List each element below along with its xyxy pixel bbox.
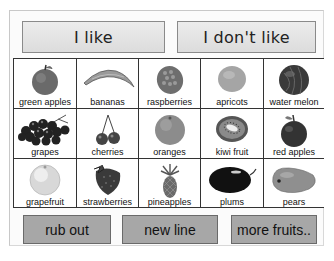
fruit-cell-pineapples[interactable]: pineapples	[138, 159, 200, 208]
more-fruits-button[interactable]: more fruits..	[231, 215, 317, 244]
green-apple-icon	[28, 63, 62, 97]
fruit-label: water melon	[269, 97, 318, 107]
plum-icon	[206, 163, 258, 195]
fruit-label: grapefruit	[26, 197, 64, 207]
fruit-cell-oranges[interactable]: oranges	[138, 109, 200, 159]
orange-icon	[152, 113, 188, 147]
i-like-button[interactable]: I like	[22, 21, 165, 53]
fruit-cell-kiwi-fruit[interactable]: kiwi fruit	[200, 109, 263, 159]
fruit-label: apricots	[216, 97, 248, 107]
kiwi-icon	[213, 113, 251, 145]
fruit-cell-plums[interactable]: plums	[200, 159, 263, 208]
fruit-label: plums	[220, 197, 244, 207]
fruit-cell-water-melon[interactable]: water melon	[263, 59, 324, 109]
grapes-icon	[16, 113, 74, 147]
grapefruit-icon	[27, 163, 63, 197]
fruit-label: grapes	[31, 147, 59, 157]
fruit-cell-grapes[interactable]: grapes	[13, 109, 76, 159]
fruit-label: raspberries	[147, 97, 192, 107]
fruit-label: cherries	[91, 147, 123, 157]
fruit-label: pears	[283, 197, 306, 207]
fruit-cell-bananas[interactable]: bananas	[76, 59, 138, 109]
fruit-cell-grapefruit[interactable]: grapefruit	[13, 159, 76, 208]
fruit-cell-red-apples[interactable]: red apples	[263, 109, 324, 159]
fruit-label: bananas	[90, 97, 125, 107]
raspberry-icon	[153, 63, 187, 97]
fruit-grid: green apples bananas raspberries apricot…	[13, 58, 324, 208]
strawberry-icon	[90, 163, 126, 197]
apricot-icon	[215, 63, 249, 95]
fruit-cell-green-apples[interactable]: green apples	[13, 59, 76, 109]
banana-icon	[80, 63, 136, 93]
fruit-label: green apples	[19, 97, 71, 107]
fruit-label: strawberries	[83, 197, 132, 207]
fruit-cell-apricots[interactable]: apricots	[200, 59, 263, 109]
watermelon-icon	[276, 63, 312, 97]
fruit-label: kiwi fruit	[216, 147, 249, 157]
new-line-button[interactable]: new line	[122, 215, 218, 244]
pineapple-icon	[159, 163, 181, 199]
i-dont-like-button[interactable]: I don't like	[177, 21, 316, 53]
cherries-icon	[93, 113, 123, 147]
more-fruits-label: more fruits..	[237, 222, 311, 238]
fruit-cell-pears[interactable]: pears	[263, 159, 324, 208]
i-like-label: I like	[74, 28, 113, 47]
pear-icon	[269, 163, 319, 195]
i-dont-like-label: I don't like	[203, 28, 290, 47]
fruit-label: oranges	[153, 147, 186, 157]
fruit-cell-strawberries[interactable]: strawberries	[76, 159, 138, 208]
rub-out-label: rub out	[45, 222, 89, 238]
fruit-cell-cherries[interactable]: cherries	[76, 109, 138, 159]
rub-out-button[interactable]: rub out	[23, 215, 111, 244]
new-line-label: new line	[144, 222, 195, 238]
fruit-cell-raspberries[interactable]: raspberries	[138, 59, 200, 109]
red-apple-icon	[277, 113, 311, 149]
